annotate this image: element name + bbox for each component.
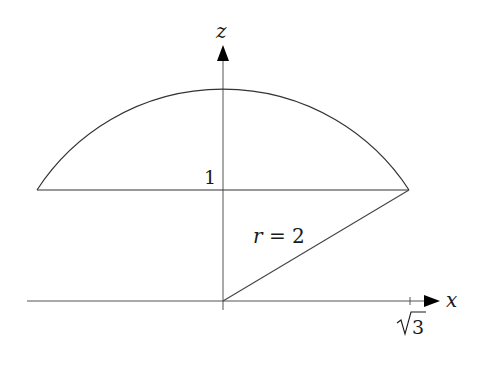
z-axis-arrow-icon: [217, 45, 229, 61]
x-tick-label-sqrt3: 3: [397, 312, 426, 338]
height-label: 1: [204, 166, 216, 188]
radius-label: r = 2: [253, 224, 305, 248]
radius-line: [223, 190, 409, 301]
z-axis-label: z: [215, 19, 227, 43]
x-axis-label: x: [446, 288, 457, 312]
cap-diagram: z x 1 r = 2 3: [0, 0, 488, 371]
sqrt-radicand: 3: [412, 316, 424, 338]
x-axis-arrow-icon: [424, 295, 440, 307]
